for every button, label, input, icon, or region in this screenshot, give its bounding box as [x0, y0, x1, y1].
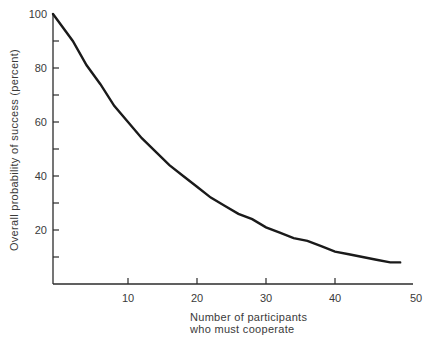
- y-tick-label: 20: [35, 224, 47, 236]
- y-axis-title: Overall probability of success (percent): [8, 49, 20, 251]
- y-tick-label: 60: [35, 116, 47, 128]
- x-axis-title-line-2: who must cooperate: [189, 323, 294, 335]
- x-axis-title-line-1: Number of participants: [190, 311, 307, 323]
- x-tick-label: 40: [329, 292, 341, 304]
- x-axis: 1020304050 Number of participants who mu…: [53, 278, 422, 335]
- x-tick-label: 10: [122, 292, 134, 304]
- x-tick-label: 30: [260, 292, 272, 304]
- y-tick-label: 40: [35, 170, 47, 182]
- y-ticks: [53, 41, 59, 257]
- y-tick-label: 100: [29, 8, 47, 20]
- x-tick-label: 50: [410, 292, 422, 304]
- x-tick-labels: 1020304050: [122, 292, 422, 304]
- y-axis: 20406080100 Overall probability of succe…: [8, 8, 59, 284]
- y-tick-labels: 20406080100: [29, 8, 47, 236]
- chart: 20406080100 Overall probability of succe…: [0, 0, 430, 341]
- x-tick-label: 20: [191, 292, 203, 304]
- y-tick-label: 80: [35, 62, 47, 74]
- x-axis-title: Number of participants who must cooperat…: [189, 311, 311, 335]
- probability-curve: [53, 14, 400, 262]
- x-ticks: [128, 278, 335, 284]
